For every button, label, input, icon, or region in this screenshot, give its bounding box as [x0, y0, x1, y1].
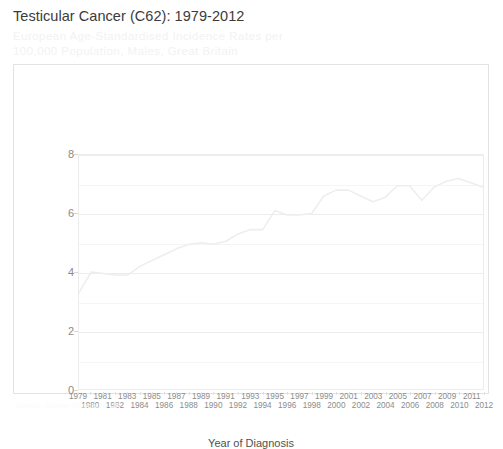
x-axis-labels: 1979198019811982198319841985198619871988… [78, 392, 484, 416]
x-tick-mark [435, 392, 436, 395]
x-tick-mark [152, 392, 153, 395]
y-tick-label: 6 [54, 207, 74, 219]
y-tick-mark [74, 390, 78, 391]
x-tick-mark [238, 392, 239, 395]
chart-panel: Rate per 100,000 02468 19791980198119821… [13, 64, 489, 394]
x-tick-label: 1988 [180, 401, 198, 410]
x-tick-mark [386, 392, 387, 395]
x-tick-mark [299, 392, 300, 395]
x-tick-mark [176, 392, 177, 395]
x-tick-label: 1986 [155, 401, 173, 410]
x-tick-mark [90, 392, 91, 395]
x-tick-mark [164, 392, 165, 395]
x-tick-label: 2012 [475, 401, 493, 410]
footer-note: Source: Cancer Research UK [15, 401, 120, 410]
x-tick-mark [447, 392, 448, 395]
x-tick-label: 2010 [450, 401, 468, 410]
x-tick-label: 2008 [426, 401, 444, 410]
series-line-chart [79, 155, 483, 389]
x-tick-mark [201, 392, 202, 395]
x-tick-label: 1992 [229, 401, 247, 410]
x-tick-mark [140, 392, 141, 395]
x-tick-mark [484, 392, 485, 395]
x-tick-mark [250, 392, 251, 395]
x-tick-label: 1994 [253, 401, 271, 410]
x-tick-label: 1996 [278, 401, 296, 410]
x-tick-mark [373, 392, 374, 395]
x-tick-mark [324, 392, 325, 395]
series-polyline [79, 178, 483, 292]
x-tick-label: 2002 [352, 401, 370, 410]
chart-title: Testicular Cancer (C62): 1979-2012 [13, 8, 244, 24]
x-tick-label: 1990 [204, 401, 222, 410]
chart-subtitle: European Age-Standardised Incidence Rate… [13, 29, 313, 59]
y-axis-ticks: 02468 [52, 154, 74, 390]
x-tick-mark [115, 392, 116, 395]
x-tick-mark [275, 392, 276, 395]
plot-wrap [78, 154, 484, 390]
x-tick-mark [213, 392, 214, 395]
x-tick-mark [336, 392, 337, 395]
x-tick-mark [472, 392, 473, 395]
x-tick-label: 1998 [303, 401, 321, 410]
x-tick-mark [361, 392, 362, 395]
x-tick-mark [226, 392, 227, 395]
y-tick-label: 8 [54, 148, 74, 160]
x-tick-mark [410, 392, 411, 395]
y-tick-label: 4 [54, 266, 74, 278]
x-tick-label: 2000 [327, 401, 345, 410]
x-tick-mark [422, 392, 423, 395]
x-tick-mark [78, 392, 79, 395]
x-tick-mark [349, 392, 350, 395]
x-tick-label: 1984 [130, 401, 148, 410]
x-tick-mark [189, 392, 190, 395]
x-tick-mark [312, 392, 313, 395]
x-tick-label: 2006 [401, 401, 419, 410]
x-tick-mark [103, 392, 104, 395]
x-tick-mark [127, 392, 128, 395]
x-tick-mark [287, 392, 288, 395]
x-tick-mark [459, 392, 460, 395]
plot-area [78, 154, 484, 390]
x-tick-mark [263, 392, 264, 395]
x-axis-title: Year of Diagnosis [14, 437, 488, 449]
x-tick-mark [398, 392, 399, 395]
y-tick-label: 2 [54, 325, 74, 337]
x-tick-label: 2004 [376, 401, 394, 410]
